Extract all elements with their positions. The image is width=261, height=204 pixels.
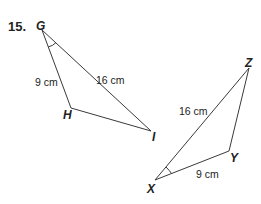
side-length-gi: 16 cm <box>96 75 125 86</box>
side-length-xy: 9 cm <box>196 169 219 180</box>
side-length-gh: 9 cm <box>35 77 58 88</box>
vertex-label-x: X <box>147 183 155 195</box>
problem-number: 15. <box>8 20 26 33</box>
vertex-label-g: G <box>36 20 45 32</box>
vertex-label-z: Z <box>245 57 252 69</box>
vertex-label-h: H <box>63 109 72 121</box>
side-length-xz: 16 cm <box>179 106 208 117</box>
vertex-label-i: I <box>152 131 155 143</box>
vertex-label-y: Y <box>230 152 238 164</box>
figure-canvas: 15. G H I 9 cm 16 cm Z Y X 16 cm 9 cm <box>0 0 261 204</box>
angle-mark-g <box>48 43 56 47</box>
angle-mark-x <box>166 167 172 174</box>
